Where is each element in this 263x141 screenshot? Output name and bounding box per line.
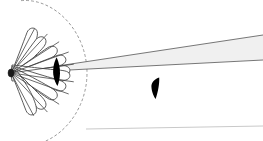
figure-root: Antenna radiation lobe pattern with main…: [0, 0, 263, 141]
radiation-pattern-diagram: Antenna radiation lobe pattern with main…: [0, 0, 263, 141]
source-point: [8, 69, 14, 77]
